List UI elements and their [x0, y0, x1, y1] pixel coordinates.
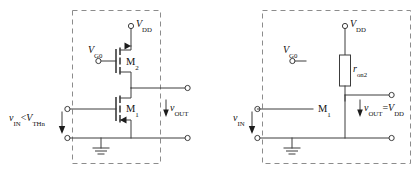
left-input-terminal-bottom [65, 135, 70, 140]
right-resistor-body [340, 55, 351, 86]
left-input-terminal-top [65, 106, 70, 111]
right-output-terminal [389, 92, 394, 97]
right-vg0-terminal [290, 58, 295, 63]
left-input-label: vIN<VTHn [9, 113, 45, 123]
right-vdd-label: VDD [350, 19, 366, 29]
left-m2-drain-lead [120, 72, 131, 88]
left-vout-arrow-head [163, 110, 169, 118]
right-resistor-label: ron2 [353, 64, 367, 74]
left-device-m1-label: M1 [126, 104, 139, 115]
left-vdd-label: VDD [136, 19, 152, 29]
right-vin-arrow-head [249, 126, 255, 134]
right-vdd-terminal [342, 23, 347, 28]
right-circuit-group [249, 11, 411, 164]
left-output-terminal-bottom [185, 135, 190, 140]
right-vout-arrow-head [357, 110, 363, 118]
right-device-m1-label: M1 [318, 104, 331, 115]
right-output-terminal-bottom [389, 135, 394, 140]
left-vg0-terminal [96, 58, 101, 63]
left-output-terminal [185, 85, 190, 90]
left-circuit-group [59, 11, 190, 164]
left-output-label: vOUT [170, 103, 188, 113]
left-vdd-terminal [128, 23, 133, 28]
left-vin-arrow-head [59, 126, 65, 134]
left-m2-source-arrow [125, 43, 132, 50]
circuit-figure: VDD VG0 M2 M1 vIN<VTHn vOUT VDD VG0 ron2… [0, 0, 415, 177]
right-dashed-boundary [263, 11, 411, 164]
left-vg0-label: VG0 [88, 45, 102, 55]
left-device-m2-label: M2 [126, 57, 139, 68]
left-dashed-boundary [73, 11, 161, 164]
left-m1-drain-lead [120, 88, 131, 98]
left-m1-source-arrow [120, 117, 127, 124]
right-output-label: vOUT=VDD [364, 103, 404, 113]
right-input-label: vIN [233, 113, 245, 123]
right-vg0-label: VG0 [283, 45, 297, 55]
right-input-terminal-bottom [255, 135, 260, 140]
